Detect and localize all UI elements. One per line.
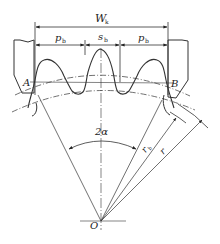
pb-right-label: p bbox=[138, 32, 145, 43]
radial-lines bbox=[38, 95, 202, 221]
angle-label: 2α bbox=[94, 126, 108, 137]
pitch-circle-arc bbox=[15, 75, 190, 96]
center-label: O bbox=[90, 220, 98, 231]
sb-label: s bbox=[98, 31, 103, 42]
pb-left-label: p bbox=[55, 32, 62, 43]
gear-measurement-diagram: W k p b s b p b 2α A B O r b r bbox=[0, 0, 220, 244]
point-a-label: A bbox=[22, 77, 30, 88]
sb-subscript: b bbox=[104, 36, 108, 43]
caliper-jaw-right bbox=[168, 40, 188, 98]
point-b-label: B bbox=[170, 78, 178, 89]
outer-arc-2 bbox=[170, 112, 186, 123]
pb-left-subscript: b bbox=[62, 37, 66, 44]
angle-arc bbox=[69, 141, 136, 149]
wk-subscript: k bbox=[105, 18, 109, 25]
outer-arc bbox=[178, 104, 208, 128]
pb-right-subscript: b bbox=[145, 37, 149, 44]
